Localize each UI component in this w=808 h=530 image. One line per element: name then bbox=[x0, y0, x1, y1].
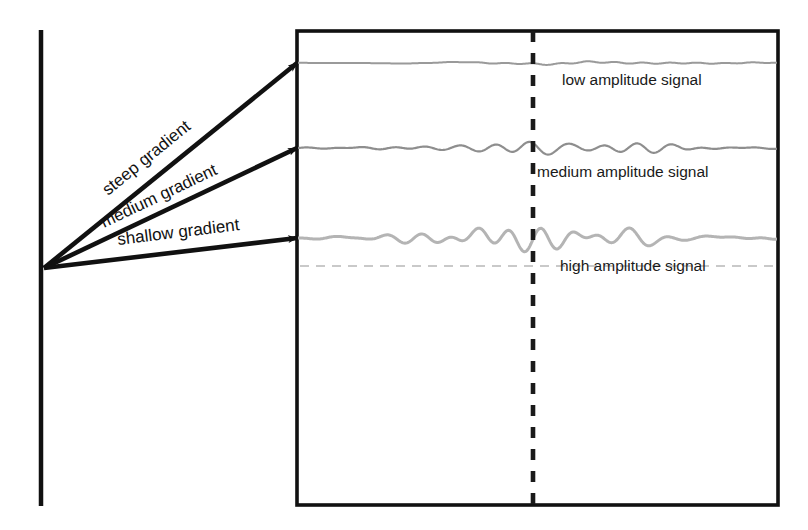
signal-label-medium-amplitude: medium amplitude signal bbox=[537, 163, 708, 180]
diagram-canvas: steep gradient medium gradient shallow g… bbox=[0, 0, 808, 530]
signal-panel-frame bbox=[297, 31, 778, 505]
arrow-label-shallow-gradient: shallow gradient bbox=[116, 215, 241, 249]
signal-label-high-amplitude: high amplitude signal bbox=[560, 257, 706, 274]
signal-trace-medium bbox=[298, 142, 777, 155]
signal-label-low-amplitude: low amplitude signal bbox=[562, 71, 702, 88]
signal-trace-low bbox=[298, 61, 777, 65]
signal-trace-high bbox=[298, 228, 777, 252]
